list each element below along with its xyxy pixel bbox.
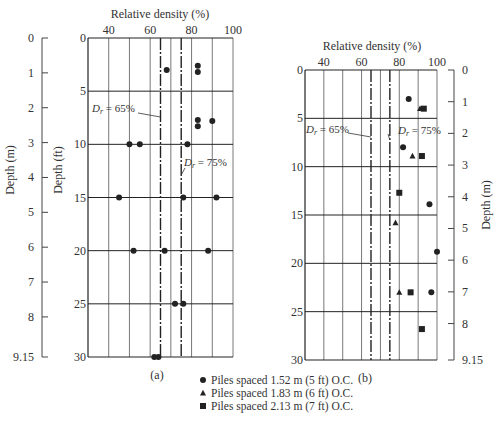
reference-line-label: Dr = 65%	[91, 102, 135, 116]
data-point-circle	[195, 69, 201, 75]
data-point-circle	[180, 195, 186, 201]
data-point-circle	[126, 141, 132, 147]
legend-label: Piles spaced 1.52 m (5 ft) O.C.	[211, 374, 353, 387]
y-tick-label-ft: 5	[80, 84, 86, 98]
data-point-circle	[209, 118, 215, 124]
data-point-circle	[172, 301, 178, 307]
y-tick-label-m: 1	[462, 95, 468, 109]
y-tick-label-ft: 10	[74, 137, 86, 151]
x-tick-label: 100	[428, 55, 446, 69]
y-tick-label-m: 8	[462, 317, 468, 331]
y-tick-label-m: 5	[462, 221, 468, 235]
data-point-circle	[184, 141, 190, 147]
data-point-triangle	[409, 153, 415, 159]
y-tick-label-ft: 0	[80, 31, 86, 45]
data-point-circle	[434, 249, 440, 255]
data-point-circle	[400, 144, 406, 150]
legend-marker-square	[200, 403, 206, 409]
y-tick-label-m: 0	[462, 63, 468, 77]
x-tick-label: 60	[356, 55, 368, 69]
y-tick-label-ft: 20	[291, 256, 303, 270]
x-axis-title: Relative density (%)	[323, 39, 422, 53]
legend: Piles spaced 1.52 m (5 ft) O.C.Piles spa…	[200, 374, 353, 413]
legend-marker-triangle	[200, 390, 206, 396]
y-tick-label-ft: 25	[74, 297, 86, 311]
y-tick-label-m: 8	[28, 310, 34, 324]
data-point-square	[408, 289, 414, 295]
data-point-circle	[406, 96, 412, 102]
data-point-triangle	[393, 220, 399, 226]
data-point-circle	[116, 195, 122, 201]
legend-label: Piles spaced 2.13 m (7 ft) O.C.	[211, 400, 353, 413]
y-tick-label-m: 3	[28, 136, 34, 150]
data-point-circle	[426, 201, 432, 207]
y-axis-title-m: Depth (m)	[3, 145, 17, 195]
data-point-circle	[213, 195, 219, 201]
data-point-square	[396, 190, 402, 196]
y-tick-label-ft: 25	[291, 305, 303, 319]
reference-line-label: Dr = 75%	[183, 156, 227, 170]
annotation-leader	[138, 113, 161, 117]
y-tick-label-ft: 5	[297, 111, 303, 125]
y-tick-label-ft: 20	[74, 244, 86, 258]
x-tick-label: 80	[393, 55, 405, 69]
legend-marker-circle	[200, 377, 206, 383]
y-tick-label-m: 5	[28, 205, 34, 219]
y-axis-title-ft: Depth (ft)	[51, 146, 65, 194]
y-tick-label-m: 0	[28, 31, 34, 45]
x-tick-label: 40	[103, 23, 115, 37]
reference-line-label: Dr = 75%	[397, 124, 441, 138]
data-point-circle	[428, 289, 434, 295]
data-point-circle	[131, 248, 137, 254]
y-tick-label-m: 7	[462, 285, 468, 299]
x-axis-title: Relative density (%)	[111, 7, 210, 21]
x-tick-label: 60	[144, 23, 156, 37]
chart-panel-b: 406080100051015202530Relative density (%…	[291, 39, 493, 385]
y-tick-label-ft: 30	[291, 353, 303, 367]
y-tick-label-m: 6	[28, 240, 34, 254]
y-tick-label-m: 4	[28, 170, 34, 184]
annotation-leader	[348, 133, 371, 137]
y-tick-label-ft: 10	[291, 160, 303, 174]
x-tick-label: 40	[318, 55, 330, 69]
x-tick-label: 80	[186, 23, 198, 37]
x-tick-label: 100	[224, 23, 242, 37]
data-point-circle	[195, 63, 201, 69]
y-tick-label-m: 6	[462, 253, 468, 267]
y-tick-label-m: 9.15	[13, 350, 34, 364]
y-tick-label-m: 1	[28, 66, 34, 80]
figure: 406080100051015202530Relative density (%…	[0, 0, 498, 421]
y-tick-label-m: 4	[462, 190, 468, 204]
data-point-circle	[195, 123, 201, 129]
y-tick-label-m: 2	[462, 126, 468, 140]
data-point-circle	[155, 354, 161, 360]
y-tick-label-m: 7	[28, 275, 34, 289]
y-tick-label-ft: 15	[291, 208, 303, 222]
data-point-square	[419, 153, 425, 159]
data-point-triangle	[396, 289, 402, 295]
data-point-square	[421, 106, 427, 112]
y-tick-label-m: 3	[462, 158, 468, 172]
panel-label: (a)	[150, 368, 163, 382]
data-point-circle	[137, 141, 143, 147]
reference-line-label: Dr = 65%	[305, 123, 349, 137]
data-point-circle	[162, 248, 168, 254]
y-tick-label-ft: 30	[74, 350, 86, 364]
y-tick-label-m: 2	[28, 101, 34, 115]
data-point-circle	[164, 67, 170, 73]
data-point-circle	[205, 248, 211, 254]
data-point-square	[419, 326, 425, 332]
data-point-circle	[195, 117, 201, 123]
chart-panel-a: 406080100051015202530Relative density (%…	[3, 7, 242, 382]
legend-label: Piles spaced 1.83 m (6 ft) O.C.	[211, 387, 353, 400]
y-tick-label-ft: 15	[74, 191, 86, 205]
y-tick-label-m: 9.15	[462, 353, 483, 367]
data-point-circle	[180, 301, 186, 307]
y-tick-label-ft: 0	[297, 63, 303, 77]
panel-label: (b)	[358, 371, 372, 385]
y-axis-title-m: Depth (m)	[479, 180, 493, 230]
